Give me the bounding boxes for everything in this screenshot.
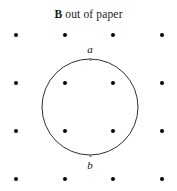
point-b-label: b xyxy=(82,160,98,171)
point-b-marker xyxy=(89,154,92,157)
point-a-label: a xyxy=(82,44,98,55)
point-a-marker xyxy=(89,58,92,61)
conducting-loop-circle xyxy=(42,59,138,155)
physics-figure-b-out-of-paper: B out of paper ab xyxy=(0,0,177,191)
